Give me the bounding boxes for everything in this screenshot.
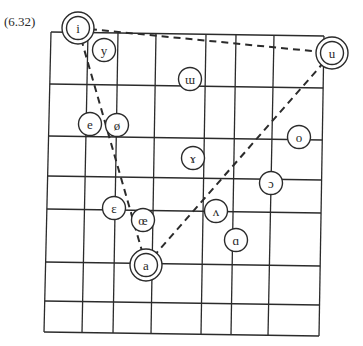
vowel-symbol: ʌ (213, 204, 220, 219)
vowel-symbol: e (87, 117, 93, 132)
grid-vertical-line (113, 33, 118, 333)
vowel-symbol: ɛ (111, 201, 117, 216)
grid-vertical-line (82, 33, 88, 333)
grid-vertical-line (231, 35, 236, 335)
vowel-symbol: i (76, 21, 80, 36)
vowel-node-ɔ: ɔ (260, 172, 283, 195)
vowel-node-ʌ: ʌ (205, 200, 228, 223)
vowel-nodes: iyɯueøoɤɔɛœʌɑa (62, 12, 348, 281)
grid-vertical-line (151, 34, 156, 334)
vowel-node-e: e (79, 113, 102, 136)
grid-horizontal-line (46, 262, 321, 266)
grid-horizontal-line (44, 332, 319, 336)
vowel-node-ø: ø (106, 114, 129, 137)
vowel-symbol: u (329, 46, 336, 61)
grid-vertical-line (319, 36, 324, 336)
vowel-node-ɑ: ɑ (225, 229, 248, 252)
vowel-symbol: ɯ (185, 72, 195, 87)
vowel-symbol: a (143, 258, 149, 273)
vowel-node-i: i (62, 12, 94, 44)
vowel-chart-figure: (6.32) iyɯueøoɤɔɛœʌɑa (0, 0, 363, 346)
vowel-symbol: o (296, 130, 303, 145)
vowel-node-ɛ: ɛ (103, 197, 126, 220)
vowel-node-ɯ: ɯ (179, 68, 202, 91)
grid-horizontal-line (47, 209, 321, 213)
vowel-node-a: a (130, 249, 162, 281)
grid-horizontal-line (45, 301, 320, 305)
vowel-symbol: ø (114, 118, 121, 133)
vowel-symbol: ɔ (268, 176, 274, 191)
vowel-quadrilateral-grid: iyɯueøoɤɔɛœʌɑa (0, 0, 363, 346)
vowel-node-œ: œ (132, 209, 155, 232)
vowel-symbol: ɤ (190, 151, 196, 166)
grid-horizontal-line (49, 136, 323, 140)
grid-vertical-line (44, 32, 51, 332)
vowel-node-ɤ: ɤ (182, 147, 205, 170)
vowel-node-o: o (288, 126, 311, 149)
vowel-symbol: œ (138, 213, 147, 228)
vowel-symbol: y (101, 43, 108, 58)
vowel-node-u: u (316, 37, 348, 69)
vowel-symbol: ɑ (233, 233, 240, 248)
vowel-node-y: y (93, 39, 116, 62)
